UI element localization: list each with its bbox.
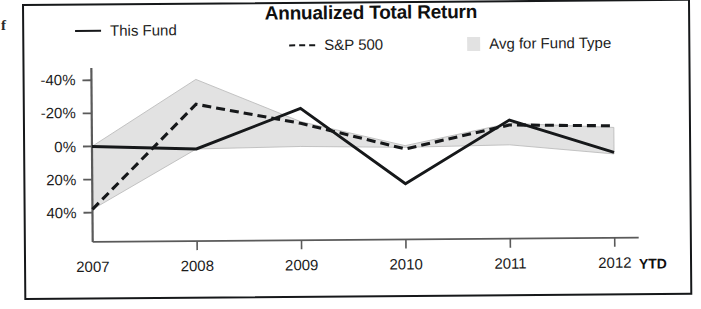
x-tick-label: 2008 — [166, 257, 228, 274]
y-axis-line — [91, 68, 92, 242]
x-axis-line — [93, 238, 639, 242]
y-tick-label: 20% — [16, 171, 76, 188]
chart-stage: Annualized Total Return This Fund S&P 50… — [0, 0, 701, 309]
x-tick-label: 2009 — [271, 256, 333, 273]
x-tick-label: 2010 — [375, 255, 437, 272]
x-tick-label: 2007 — [62, 258, 124, 275]
avg-fund-type-band — [91, 76, 614, 209]
y-tick-label: 40% — [16, 204, 76, 221]
y-tick-label: -40% — [15, 71, 75, 88]
x-tick-label: 2011 — [479, 254, 541, 271]
y-tick-label: -20% — [16, 104, 76, 121]
y-tick-label: 0% — [16, 138, 76, 155]
ytd-label: YTD — [639, 255, 667, 271]
x-tick-label: 2012 — [584, 254, 646, 271]
